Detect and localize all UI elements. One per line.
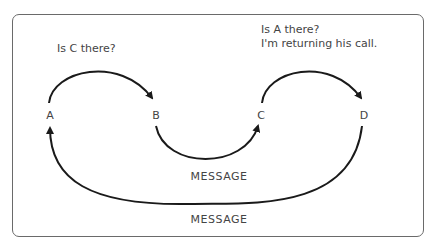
arrow-a-to-b <box>49 72 152 103</box>
caption-c-to-d-line2: I'm returning his call. <box>261 37 377 51</box>
arrow-c-to-d <box>262 72 361 103</box>
caption-a-to-b: Is C there? <box>57 42 116 56</box>
node-a: A <box>46 110 54 121</box>
label-message-b-to-c: MESSAGE <box>191 170 248 183</box>
node-d: D <box>360 110 368 121</box>
node-c: C <box>257 110 265 121</box>
caption-c-to-d: Is A there? I'm returning his call. <box>261 23 377 51</box>
caption-c-to-d-line1: Is A there? <box>261 23 377 37</box>
node-b: B <box>152 110 160 121</box>
label-message-d-to-a: MESSAGE <box>191 213 248 226</box>
arrow-b-to-c <box>156 126 258 159</box>
arrow-d-to-a <box>50 126 362 204</box>
